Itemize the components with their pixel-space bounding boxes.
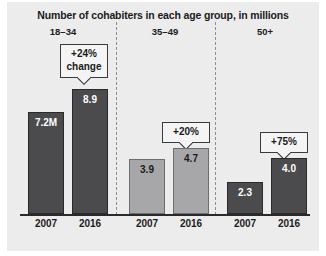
group-divider-1 (116, 22, 117, 215)
chart-screenshot: Number of cohabiters in each age group, … (0, 0, 326, 256)
bar-value-18-34-2007: 7.2M (29, 117, 63, 128)
bar-35-49-2016: 4.7 (173, 148, 209, 214)
group-divider-2 (215, 22, 216, 215)
bar-50-plus-2007: 2.3 (227, 182, 263, 214)
bar-value-35-49-2007: 3.9 (130, 164, 164, 175)
x-tick-18-34-2007: 2007 (28, 218, 64, 229)
group-label-35-49: 35–49 (115, 26, 215, 37)
callout-35-49: +20% (162, 122, 210, 143)
bar-value-50-plus-2007: 2.3 (228, 187, 262, 198)
bar-50-plus-2016: 4.0 (271, 158, 307, 214)
bar-18-34-2007: 7.2M (28, 112, 64, 214)
bar-value-18-34-2016: 8.9 (73, 94, 107, 105)
x-tick-35-49-2016: 2016 (173, 218, 209, 229)
chart-title: Number of cohabiters in each age group, … (7, 9, 319, 21)
callout-50-plus-line1: +75% (261, 136, 307, 149)
callout-50-plus: +75% (260, 132, 308, 153)
callout-pointer-mask (180, 140, 192, 143)
x-axis-line (20, 214, 310, 216)
callout-pointer-icon (77, 77, 91, 85)
bar-18-34-2016: 8.9 (72, 89, 108, 214)
group-label-50-plus: 50+ (215, 26, 315, 37)
callout-18-34-line1: +24% (61, 48, 107, 61)
group-label-18-34: 18–34 (11, 26, 115, 37)
callout-18-34: +24% change (60, 44, 108, 78)
x-tick-50-plus-2016: 2016 (271, 218, 307, 229)
callout-18-34-line2: change (61, 61, 107, 74)
x-tick-35-49-2007: 2007 (129, 218, 165, 229)
callout-pointer-mask (278, 150, 290, 153)
bar-35-49-2007: 3.9 (129, 159, 165, 214)
bar-value-35-49-2016: 4.7 (174, 153, 208, 164)
bar-value-50-plus-2016: 4.0 (272, 163, 306, 174)
chart-panel: Number of cohabiters in each age group, … (7, 2, 319, 251)
callout-pointer-mask (78, 75, 90, 78)
x-tick-18-34-2016: 2016 (72, 218, 108, 229)
x-tick-50-plus-2007: 2007 (227, 218, 263, 229)
callout-35-49-line1: +20% (163, 126, 209, 139)
